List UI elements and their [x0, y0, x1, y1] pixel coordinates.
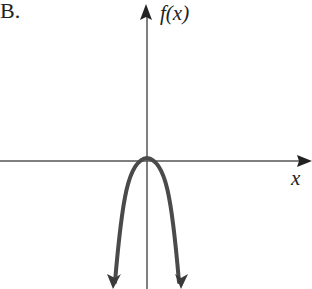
graph — [0, 0, 312, 289]
y-axis-arrow-icon — [140, 4, 152, 20]
x-axis-arrow-icon — [297, 155, 312, 167]
